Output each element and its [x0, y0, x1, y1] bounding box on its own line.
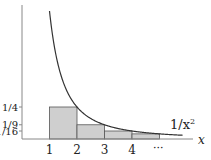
x-axis-label: x [198, 133, 205, 147]
x-tick-label: 3 [101, 143, 109, 157]
x-tick-label: 1 [46, 143, 54, 157]
x-ticks-group: 1234 [46, 143, 137, 157]
rectangle-1 [50, 107, 78, 139]
rectangle-4 [132, 134, 160, 139]
y-tick-label: 1/16 [0, 126, 18, 137]
rectangles-group [50, 107, 160, 139]
x-tick-label: 2 [73, 143, 81, 157]
rectangle-2 [77, 125, 105, 139]
y-tick-label: 1/4 [2, 102, 18, 113]
y-ticks-group: 1/41/91/16 [0, 102, 22, 137]
function-label: 1/x2 [170, 117, 195, 132]
x-tick-label: 4 [128, 143, 136, 157]
rectangle-3 [105, 131, 133, 139]
ellipsis: ··· [153, 142, 164, 155]
riemann-sum-diagram: 1/41/91/16 1234 1/x2 x ··· [0, 0, 211, 160]
